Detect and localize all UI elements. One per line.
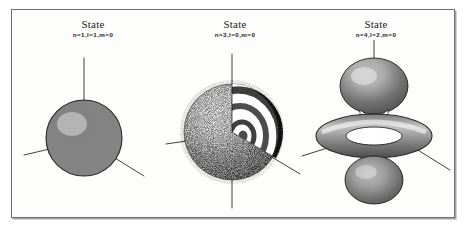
orbital-illustration-4d	[300, 40, 452, 216]
caption-1s: State n=1,l=1,m=0	[18, 18, 168, 39]
state-label-3s: State	[160, 18, 310, 30]
orbital-panel-3s: State n=3,l=0,m=0	[160, 10, 310, 217]
orbital-panel-1s: State n=1,l=1,m=0	[18, 10, 168, 217]
quantum-numbers-4d: n=4,l=2,m=0	[300, 31, 452, 39]
state-label-4d: State	[300, 18, 452, 30]
caption-3s: State n=3,l=0,m=0	[160, 18, 310, 39]
lobe-bottom	[300, 40, 452, 216]
quantum-numbers-1s: n=1,l=1,m=0	[18, 31, 168, 39]
orbital-panel-4d: State n=4,l=2,m=0	[300, 10, 452, 217]
caption-4d: State n=4,l=2,m=0	[300, 18, 452, 39]
figure-frame: State n=1,l=1,m=0	[11, 9, 455, 218]
orbital-illustration-3s	[160, 40, 310, 216]
quantum-numbers-3s: n=3,l=0,m=0	[160, 31, 310, 39]
orbital-illustration-1s	[18, 40, 168, 216]
state-label-1s: State	[18, 18, 168, 30]
